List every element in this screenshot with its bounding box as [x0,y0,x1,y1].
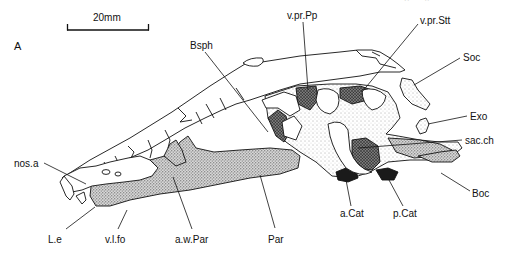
label-par: Par [268,234,284,245]
label-a-w-par: a.w.Par [175,234,208,245]
label-a-cat: a.Cat [340,208,364,219]
leader-line-l-e [66,207,95,229]
leader-line-p-cat [389,180,403,206]
supraoccipital-bone [400,78,430,110]
label-v-pr-stt: v.pr.Stt [420,15,450,26]
label-nos-a: nos.a [14,158,38,169]
scale-bar-label: 20mm [93,12,121,23]
label-exo: Exo [470,111,487,122]
leader-line-a-cat [346,180,351,206]
leader-line-par [260,175,275,228]
exoccipital-bone [416,118,429,134]
label-sac-ch: sac.ch [465,135,494,146]
scale-bar [67,24,149,31]
leader-line-soc [414,58,460,85]
panel-label: A [14,40,21,52]
label-boc: Boc [472,188,489,199]
leader-line-boc [441,173,470,191]
label-v-pr-pp: v.pr.Pp [287,10,317,21]
label-l-e: L.e [48,234,62,245]
leader-line-v-l-fo [118,210,127,229]
leader-line-exo [428,116,467,124]
anatomical-figure: ... p ... y ... [0,0,506,256]
label-p-cat: p.Cat [393,208,417,219]
label-soc: Soc [463,52,480,63]
skull-illustration [0,0,506,256]
label-v-l-fo: v.l.fo [105,234,125,245]
label-bsph: Bsph [190,40,213,51]
